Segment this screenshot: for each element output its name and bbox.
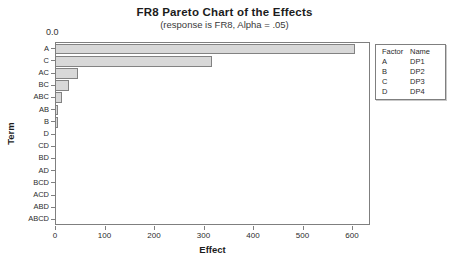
x-tick-label-200: 200 [139,231,169,240]
legend-factor: C [376,77,410,87]
y-axis-title: Term [5,112,16,156]
x-tick-mark [352,226,353,230]
x-tick-label-500: 500 [288,231,318,240]
pareto-chart-figure: FR8 Pareto Chart of the Effects (respons… [0,0,449,259]
bar-c [56,56,212,67]
x-tick-label-0: 0 [40,231,70,240]
y-tick-mark [51,146,55,147]
bar-ac [56,68,78,79]
y-tick-mark [51,97,55,98]
y-tick-label-ab: AB [18,105,49,114]
legend-header: FactorName [376,47,445,57]
y-tick-mark [51,134,55,135]
x-tick-mark [253,226,254,230]
y-tick-label-a: A [18,44,49,53]
y-tick-label-d: D [18,129,49,138]
legend-name: DP2 [410,67,425,77]
legend-box: FactorName ADP1BDP2CDP3DDP4 [375,44,446,100]
legend-name: DP3 [410,77,425,87]
x-tick-mark [55,226,56,230]
y-tick-label-ad: AD [18,166,49,175]
y-tick-mark [51,219,55,220]
x-tick-mark [105,226,106,230]
chart-subtitle: (response is FR8, Alpha = .05) [0,19,449,30]
y-tick-mark [51,48,55,49]
bar-b [56,117,58,128]
plot-area [55,42,370,225]
y-tick-mark [51,182,55,183]
x-tick-mark [204,226,205,230]
x-tick-label-300: 300 [189,231,219,240]
chart-title: FR8 Pareto Chart of the Effects [0,6,449,18]
y-tick-mark [51,73,55,74]
x-tick-mark [154,226,155,230]
legend-factor: D [376,87,410,97]
y-tick-label-abd: ABD [18,202,49,211]
bar-ab [56,105,58,116]
y-tick-mark [51,158,55,159]
x-tick-label-400: 400 [238,231,268,240]
x-tick-label-600: 600 [337,231,367,240]
y-tick-label-abc: ABC [18,92,49,101]
x-tick-label-100: 100 [90,231,120,240]
legend-header-factor: Factor [376,47,410,57]
legend-row-a: ADP1 [376,57,445,67]
legend-name: DP1 [410,57,425,67]
bar-bc [56,80,69,91]
y-tick-label-abcd: ABCD [18,214,49,223]
y-tick-label-c: C [18,56,49,65]
y-tick-mark [51,170,55,171]
x-tick-mark [303,226,304,230]
y-tick-mark [51,60,55,61]
y-tick-mark [51,121,55,122]
bar-a [56,44,355,55]
legend-header-name: Name [410,47,430,57]
legend-factor: B [376,67,410,77]
y-tick-label-ac: AC [18,68,49,77]
y-tick-mark [51,109,55,110]
legend-row-b: BDP2 [376,67,445,77]
legend-row-d: DDP4 [376,87,445,97]
y-tick-label-acd: ACD [18,190,49,199]
y-tick-label-bd: BD [18,153,49,162]
reference-line-label: 0.0 [46,27,59,37]
y-tick-label-cd: CD [18,141,49,150]
x-axis-title: Effect [55,244,370,255]
y-tick-mark [51,85,55,86]
y-tick-label-bcd: BCD [18,178,49,187]
y-tick-label-b: B [18,117,49,126]
legend-row-c: CDP3 [376,77,445,87]
bar-abc [56,92,62,103]
legend-factor: A [376,57,410,67]
y-tick-mark [51,195,55,196]
y-tick-mark [51,207,55,208]
legend-name: DP4 [410,87,425,97]
y-tick-label-bc: BC [18,80,49,89]
